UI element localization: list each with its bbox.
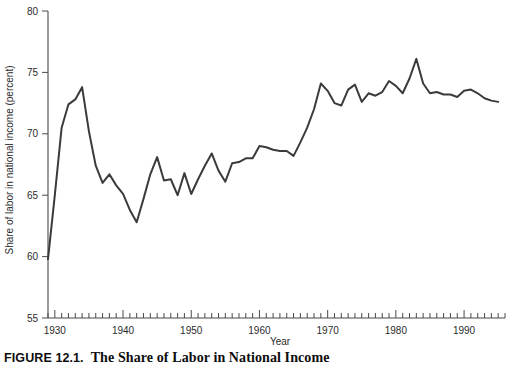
figure-container: 556065707580 193019401950196019701980199… [0, 0, 512, 372]
figure-caption-text: The Share of Labor in National Income [91, 350, 330, 365]
line-chart: 556065707580 193019401950196019701980199… [0, 0, 512, 348]
x-tick-label: 1960 [248, 325, 271, 336]
data-series [48, 59, 498, 259]
x-tick-label: 1950 [180, 325, 203, 336]
y-tick-label: 55 [27, 313, 39, 324]
x-axis-title: Year [270, 336, 291, 347]
x-tick-label: 1970 [317, 325, 340, 336]
y-tick-label: 75 [27, 67, 39, 78]
x-tick-label: 1980 [385, 325, 408, 336]
chart-area: 556065707580 193019401950196019701980199… [0, 0, 512, 348]
x-tick-label: 1930 [44, 325, 67, 336]
figure-caption-label: FIGURE 12.1. [4, 351, 84, 365]
x-axis: 1930194019501960197019801990 [44, 310, 505, 336]
y-tick-label: 60 [27, 251, 39, 262]
y-axis: 556065707580 [27, 6, 48, 324]
y-tick-label: 70 [27, 128, 39, 139]
figure-caption: FIGURE 12.1. The Share of Labor in Natio… [4, 350, 508, 366]
x-tick-label: 1990 [453, 325, 476, 336]
x-tick-label: 1940 [112, 325, 135, 336]
y-tick-label: 65 [27, 190, 39, 201]
data-line-series [48, 59, 498, 259]
y-axis-title: Share of labor in national income (perce… [4, 66, 15, 255]
y-tick-label: 80 [27, 6, 39, 17]
